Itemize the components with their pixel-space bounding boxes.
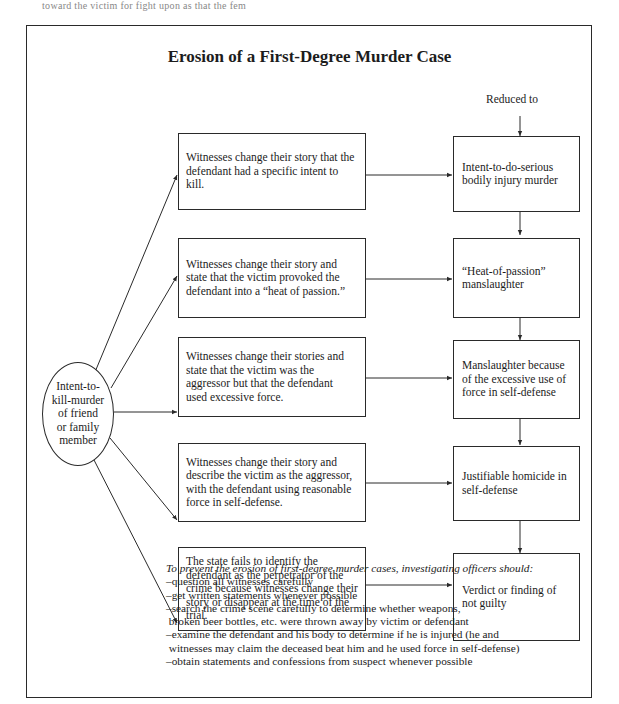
witness-box-reasonable-force: Witnesses change their story and describ… — [178, 443, 366, 522]
box-line: force in self-defense. — [186, 496, 352, 510]
box-line: force in self-defense — [462, 386, 566, 400]
notes-item: witnesses may claim the deceased beat hi… — [166, 642, 533, 655]
outcome-box-justifiable-homicide: Justifiable homicide in self-defense — [453, 446, 580, 521]
box-line: state that the victim was the — [186, 364, 344, 378]
notes-item: –obtain statements and confessions from … — [166, 655, 533, 668]
prevention-notes: To prevent the erosion of first-degree m… — [166, 562, 533, 668]
notes-item: –examine the defendant and his body to d… — [166, 628, 533, 641]
notes-item: broken beer bottles, etc. were thrown aw… — [166, 615, 533, 628]
origin-line: member — [52, 434, 104, 448]
outcome-box-excessive-force-manslaughter: Manslaughter because of the excessive us… — [453, 340, 580, 419]
box-line: Manslaughter because — [462, 359, 566, 373]
notes-item: –question all witnesses carefully — [166, 575, 533, 588]
outcome-box-serious-bodily-injury: Intent-to-do-serious bodily injury murde… — [453, 136, 580, 212]
notes-item: –search the crime scene carefully to det… — [166, 602, 533, 615]
origin-line: Intent-to- — [52, 380, 104, 394]
witness-box-excessive-force: Witnesses change their stories and state… — [178, 337, 366, 417]
box-line: with the defendant using reasonable — [186, 483, 352, 497]
witness-box-heat-of-passion: Witnesses change their story and state t… — [178, 238, 366, 318]
box-line: used excessive force. — [186, 391, 344, 405]
box-line: Witnesses change their stories and — [186, 350, 344, 364]
witness-box-specific-intent: Witnesses change their story that the de… — [178, 133, 366, 210]
box-line: kill. — [186, 178, 354, 192]
box-line: Intent-to-do-serious — [462, 161, 558, 175]
notes-heading: To prevent the erosion of first-degree m… — [166, 562, 533, 575]
box-line: Witnesses change their story and — [186, 258, 345, 272]
box-line: “Heat-of-passion” — [462, 265, 546, 279]
box-line: of the excessive use of — [462, 373, 566, 387]
origin-line: or family — [52, 421, 104, 435]
box-line: aggressor but that the defendant — [186, 377, 344, 391]
origin-node-intent-to-kill: Intent-to- kill-murder of friend or fami… — [42, 362, 114, 466]
outcome-box-heat-of-passion-manslaughter: “Heat-of-passion” manslaughter — [453, 238, 580, 318]
box-line: bodily injury murder — [462, 174, 558, 188]
origin-line: of friend — [52, 407, 104, 421]
origin-line: kill-murder — [52, 394, 104, 408]
box-line: self-defense — [462, 484, 567, 498]
box-line: Witnesses change their story that the — [186, 151, 354, 165]
notes-item: –get written statements whenever possibl… — [166, 589, 533, 602]
box-line: describe the victim as the aggressor, — [186, 469, 352, 483]
box-line: Justifiable homicide in — [462, 470, 567, 484]
box-line: defendant into a “heat of passion.” — [186, 285, 345, 299]
box-line: Witnesses change their story and — [186, 456, 352, 470]
box-line: state that the victim provoked the — [186, 271, 345, 285]
box-line: manslaughter — [462, 278, 546, 292]
box-line: defendant had a specific intent to — [186, 165, 354, 179]
